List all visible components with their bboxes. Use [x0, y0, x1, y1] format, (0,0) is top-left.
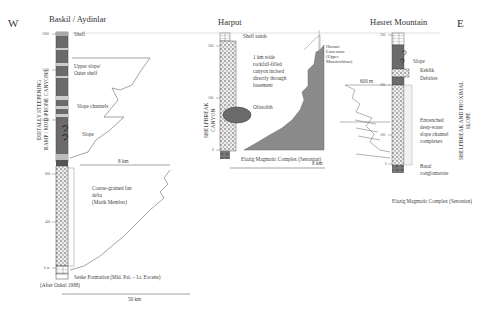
vertical-label-line: RAMP / MUD-PRONE CANYONS [43, 70, 50, 150]
scale-8km: 8 km [118, 158, 129, 164]
label-upper-slope: Upper slope/ [74, 63, 101, 69]
scale-50km: 50 km [128, 296, 141, 302]
label-shelf: Shelf [74, 31, 85, 37]
tick-label: 1400 [42, 68, 49, 72]
hasret-profile [340, 85, 390, 158]
hasret-vertical-label: SHELFBREAK AND PROXIMAL SLOPE [458, 81, 471, 160]
harput-vertical-label: SHELFBREAK CANYON [203, 103, 216, 138]
tick-label: 200 [208, 44, 213, 48]
label-fan-delta: delta [92, 192, 102, 198]
label-entrenched: Entrenched [420, 117, 444, 123]
label-entrenched: deep-water [420, 124, 443, 130]
tick-label: 0 [212, 148, 214, 152]
harput-column [216, 33, 251, 159]
tick-label: 200 [380, 83, 385, 87]
label-basal: conglomerate [420, 170, 448, 176]
label-harami: Maastrichtian) [326, 59, 352, 64]
label-slope-hasret: Slope [413, 58, 425, 64]
label-canyon: basement [253, 82, 273, 88]
label-600m: 600 m [360, 78, 373, 84]
tick-label: 1200 [42, 118, 49, 122]
label-entrenched: slope channel [420, 131, 448, 137]
vertical-label-line: CANYON [210, 103, 217, 138]
label-elazig: Elazig Magmatic Complex (Senonian) [241, 156, 321, 162]
tick-label: 100 [208, 96, 213, 100]
tick-label: 400 [45, 220, 50, 224]
tick-label: 1800 [42, 32, 49, 36]
label-canyon: rockfall-filled [253, 61, 282, 67]
label-canyon: 1 km wide [253, 54, 275, 60]
label-source: (After Ozkul 1988) [40, 282, 80, 288]
baskil-vertical-label: DISTALLY STEEPENING RAMP / MUD-PRONE CAN… [36, 70, 49, 150]
scale-8km-harput: 8 km [312, 160, 323, 166]
label-slope: Slope [82, 131, 94, 137]
vertical-label-line: SLOPE [465, 81, 472, 160]
vertical-label-line: DISTALLY STEEPENING [36, 70, 43, 150]
label-olistolith: Olistolith [253, 104, 273, 110]
tick-label: 0 [385, 162, 387, 166]
baskil-column [52, 32, 74, 279]
hasret-column [388, 33, 412, 173]
label-keklik: Keklik [420, 67, 434, 73]
label-canyon: directly through [253, 75, 286, 81]
label-fan-delta: (Marik Member) [92, 199, 127, 205]
diagram-graphics [0, 0, 500, 310]
label-shelf-sands: Shelf sands [243, 33, 267, 39]
label-basal: Basal [420, 163, 432, 169]
label-slope-channels: Slope channels [77, 103, 108, 109]
label-canyon: canyon incised [253, 68, 284, 74]
label-seske-formation: Seske Formation (Mid. Pal. – Lr. Eocene) [74, 274, 161, 280]
tick-label: 100 [380, 133, 385, 137]
label-elazig-hasret: Elazig Magmatic Complex (Senonian) [392, 198, 472, 204]
label-fan-delta: Coarse-grained fan [92, 185, 132, 191]
label-outer-shelf: Outer shelf [74, 70, 97, 76]
label-entrenched: complexes [420, 138, 442, 144]
tick-label: 800 [45, 172, 50, 176]
vertical-label-line: SHELFBREAK [203, 103, 210, 138]
tick-label: 0 m [44, 266, 49, 270]
label-keklik: Debrites [420, 75, 438, 81]
vertical-label-line: SHELFBREAK AND PROXIMAL [458, 81, 465, 160]
tick-label: 300 [380, 33, 385, 37]
